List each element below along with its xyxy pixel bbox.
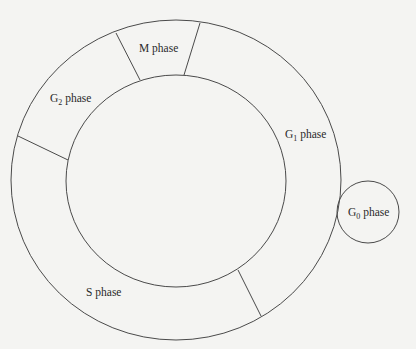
label-g2-phase: G2 phase <box>50 92 91 107</box>
label-g0-phase: G0 phase <box>348 206 389 221</box>
label-m-phase: M phase <box>139 42 178 55</box>
divider-g2-m <box>116 33 140 80</box>
label-g1-phase: G1 phase <box>285 128 326 143</box>
divider-g1-s <box>238 270 261 316</box>
outer-ring <box>11 20 341 340</box>
inner-ring <box>66 75 286 287</box>
divider-m-g1 <box>184 23 200 75</box>
cell-cycle-diagram: M phase G2 phase G1 phase S phase G0 pha… <box>0 0 416 349</box>
divider-s-g2 <box>18 136 68 160</box>
label-s-phase: S phase <box>86 286 121 299</box>
